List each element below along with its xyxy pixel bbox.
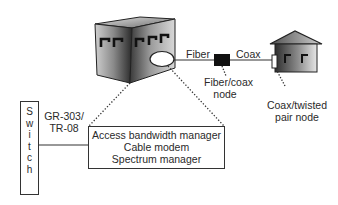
fiber-coax-node-icon <box>214 54 230 66</box>
switch-box: S w i t c h <box>20 101 39 195</box>
callout-left-leader <box>89 83 130 126</box>
fiber-label: Fiber <box>186 48 210 60</box>
switch-letter: h <box>21 164 38 176</box>
switch-letter: t <box>21 141 38 153</box>
house-icon <box>270 31 322 72</box>
coax-twisted-pair-node-label: Coax/twisted pair node <box>262 99 332 123</box>
fiber-coax-node-label: Fiber/coax node <box>204 76 246 100</box>
coax-twisted-pair-label-line1: Coax/twisted <box>262 99 332 111</box>
fiber-coax-node-label-line2: node <box>204 88 246 100</box>
coax-twisted-pair-node-box <box>272 55 277 68</box>
access-function-box: Access bandwidth manager Cable modem Spe… <box>88 126 225 169</box>
switch-letter: i <box>21 129 38 141</box>
switch-letter: c <box>21 152 38 164</box>
headend-port-oval <box>150 52 174 67</box>
cable-modem-label: Cable modem <box>89 141 224 153</box>
headend-building-icon <box>95 17 175 83</box>
access-bandwidth-manager-label: Access bandwidth manager <box>89 129 224 141</box>
switch-letter: S <box>21 106 38 118</box>
coax-label: Coax <box>236 48 261 60</box>
interface-label-line1: GR-303/ <box>42 110 86 122</box>
spectrum-manager-label: Spectrum manager <box>89 153 224 165</box>
fiber-coax-node-label-line1: Fiber/coax <box>204 76 246 88</box>
fiber-node-leader <box>222 66 226 76</box>
interface-label-line2: TR-08 <box>42 122 86 134</box>
coax-twisted-pair-label-line2: pair node <box>262 111 332 123</box>
switch-letter: w <box>21 118 38 130</box>
switch-label: S w i t c h <box>21 106 38 175</box>
interface-label: GR-303/ TR-08 <box>42 110 86 134</box>
